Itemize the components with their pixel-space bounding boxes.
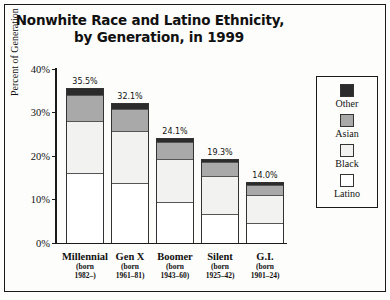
legend-swatch-icon <box>340 174 354 187</box>
legend-item-other[interactable]: Other <box>317 84 377 110</box>
bar-total-label: 19.3% <box>207 148 232 157</box>
bar-total-label: 35.5% <box>72 77 97 86</box>
bar-segment-asian[interactable] <box>157 143 193 160</box>
x-category-label: Silent(born1925–42) <box>206 251 235 280</box>
x-category-sublabel: 1925–42) <box>206 271 235 280</box>
bar-group[interactable]: 32.1%Gen X(born1961–81) <box>111 103 149 243</box>
y-tick-label: 30% <box>31 107 50 118</box>
bar-segment-black[interactable] <box>112 132 148 184</box>
legend-label: Black <box>317 158 377 170</box>
bar-group[interactable]: 24.1%Boomer(born1943–60) <box>156 138 194 243</box>
chart-figure: Nonwhite Race and Latino Ethnicity, by G… <box>0 0 390 300</box>
bar-segment-other[interactable] <box>67 89 103 96</box>
x-category-name: Millennial <box>62 251 108 262</box>
bar-segment-latino[interactable] <box>112 184 148 243</box>
legend-swatch-icon <box>340 84 354 97</box>
y-axis-label: Percent of Generation <box>9 8 20 96</box>
chart-legend: OtherAsianBlackLatino <box>316 76 378 208</box>
bar-total-label: 14.0% <box>252 171 277 180</box>
bar-segment-black[interactable] <box>67 122 103 174</box>
chart-title: Nonwhite Race and Latino Ethnicity, by G… <box>0 12 300 46</box>
x-category-sublabel: (born <box>206 262 235 271</box>
x-category-sublabel: (born <box>251 262 280 271</box>
bar-segment-black[interactable] <box>157 160 193 203</box>
bar-segment-latino[interactable] <box>202 215 238 242</box>
bar-segment-black[interactable] <box>202 177 238 215</box>
stacked-bar[interactable]: 24.1% <box>156 138 194 243</box>
bar-group[interactable]: 19.3%Silent(born1925–42) <box>201 159 239 243</box>
x-category-sublabel: 1982–) <box>62 271 108 280</box>
x-category-name: Gen X <box>116 251 145 262</box>
legend-label: Other <box>317 98 377 110</box>
legend-swatch-icon <box>340 144 354 157</box>
stacked-bar[interactable]: 32.1% <box>111 103 149 243</box>
x-category-name: Silent <box>206 251 235 262</box>
legend-label: Latino <box>317 188 377 200</box>
x-category-label: Millennial(born1982–) <box>62 251 108 280</box>
x-category-sublabel: 1961–81) <box>116 271 145 280</box>
y-tick-label: 0% <box>36 237 50 248</box>
legend-item-asian[interactable]: Asian <box>317 114 377 140</box>
bar-group[interactable]: 14.0%G.I.(born1901–24) <box>246 182 284 243</box>
y-tick-mark <box>52 243 55 244</box>
x-category-sublabel: (born <box>157 262 193 271</box>
bar-segment-asian[interactable] <box>202 163 238 177</box>
x-category-name: G.I. <box>251 251 280 262</box>
y-axis-line <box>55 68 57 244</box>
legend-label: Asian <box>317 128 377 140</box>
bar-segment-latino[interactable] <box>247 224 283 243</box>
bar-segment-latino[interactable] <box>157 203 193 243</box>
bar-segment-latino[interactable] <box>67 174 103 243</box>
bar-segment-black[interactable] <box>247 196 283 224</box>
x-axis-line <box>55 243 287 245</box>
bar-segment-asian[interactable] <box>112 110 148 132</box>
bar-segment-asian[interactable] <box>247 186 283 196</box>
stacked-bar[interactable]: 35.5% <box>66 88 104 242</box>
bar-segment-asian[interactable] <box>67 96 103 122</box>
stacked-bar[interactable]: 19.3% <box>201 159 239 243</box>
legend-item-latino[interactable]: Latino <box>317 174 377 200</box>
bar-group[interactable]: 35.5%Millennial(born1982–) <box>66 88 104 242</box>
chart-title-line-2: by Generation, in 1999 <box>0 29 300 46</box>
x-category-name: Boomer <box>157 251 193 262</box>
y-tick-mark <box>52 112 55 113</box>
y-tick-label: 40% <box>31 63 50 74</box>
legend-swatch-icon <box>340 114 354 127</box>
stacked-bar[interactable]: 14.0% <box>246 182 284 243</box>
y-tick-mark <box>52 69 55 70</box>
bar-total-label: 32.1% <box>117 92 142 101</box>
x-category-sublabel: (born <box>116 262 145 271</box>
x-category-label: Gen X(born1961–81) <box>116 251 145 280</box>
x-category-sublabel: 1901–24) <box>251 271 280 280</box>
x-category-sublabel: 1943–60) <box>157 271 193 280</box>
x-category-label: Boomer(born1943–60) <box>157 251 193 280</box>
bar-total-label: 24.1% <box>162 127 187 136</box>
y-tick-label: 20% <box>31 150 50 161</box>
y-tick-mark <box>52 199 55 200</box>
plot-area: 0%10%20%30%40% 35.5%Millennial(born1982–… <box>55 68 285 244</box>
y-tick-label: 10% <box>31 194 50 205</box>
y-tick-mark <box>52 156 55 157</box>
x-category-label: G.I.(born1901–24) <box>251 251 280 280</box>
legend-item-black[interactable]: Black <box>317 144 377 170</box>
chart-title-line-1: Nonwhite Race and Latino Ethnicity, <box>0 12 300 29</box>
x-category-sublabel: (born <box>62 262 108 271</box>
